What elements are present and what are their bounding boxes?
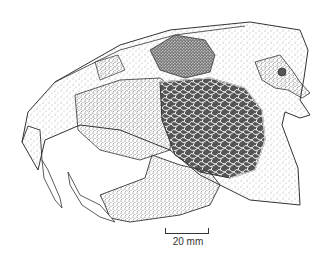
figure-canvas: 20 mm [0,0,327,258]
skull-illustration [0,0,327,258]
upper-incisor [42,160,62,208]
scale-bar-label: 20 mm [163,236,213,247]
scale-bar-right-tick [208,228,209,234]
scale-bar-left-tick [165,228,166,234]
scale-bar-line [165,233,209,234]
scale-bar [165,226,209,234]
